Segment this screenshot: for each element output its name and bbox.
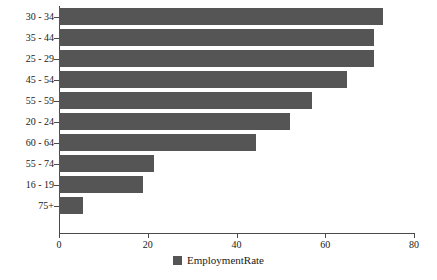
y-axis-tick-label: 25 - 29 [26,54,54,64]
y-axis-tick-label: 16 - 19 [26,180,54,190]
bar [59,92,312,109]
bar-fill [59,71,347,88]
plot-area [59,8,414,233]
bar-fill [59,92,312,109]
y-axis-tick-label: 30 - 34 [26,12,54,22]
x-axis-tick-label: 80 [394,240,434,250]
bar-fill [59,50,374,67]
x-axis-tick-label: 0 [39,240,79,250]
bar [59,197,83,214]
x-axis-tick-mark [325,234,326,238]
x-axis-tick-mark [59,234,60,238]
legend-label-employmentrate: EmploymentRate [187,255,264,266]
bar-fill [59,197,83,214]
x-axis-tick-label: 20 [128,240,168,250]
y-axis-tick-label: 45 - 54 [26,75,54,85]
bar-fill [59,134,256,151]
bar-fill [59,113,290,130]
bar-fill [59,29,374,46]
y-axis-tick-label: 75+ [38,201,54,211]
bar [59,176,143,193]
chart-legend: EmploymentRate [0,255,437,266]
y-axis-tick-label: 55 - 59 [26,96,54,106]
y-axis-tick-label: 55 - 74 [26,159,54,169]
y-axis-tick-label: 20 - 24 [26,117,54,127]
bar [59,155,154,172]
x-axis-tick-label: 60 [305,240,345,250]
y-axis-tick-labels: 30 - 3435 - 4425 - 2945 - 5455 - 5920 - … [0,0,54,280]
x-axis-tick-mark [148,234,149,238]
bar-chart: 30 - 3435 - 4425 - 2945 - 5455 - 5920 - … [0,0,437,280]
bar [59,113,290,130]
bar [59,29,374,46]
bar-fill [59,155,154,172]
bar [59,71,347,88]
y-axis-tick-label: 60 - 64 [26,138,54,148]
bar [59,134,256,151]
legend-swatch-employmentrate [173,256,182,265]
bar-fill [59,176,143,193]
bar [59,50,374,67]
y-axis-tick-label: 35 - 44 [26,33,54,43]
x-axis-tick-mark [414,234,415,238]
x-axis-tick-mark [237,234,238,238]
bar-fill [59,8,383,25]
bar [59,8,383,25]
x-axis-tick-label: 40 [217,240,257,250]
